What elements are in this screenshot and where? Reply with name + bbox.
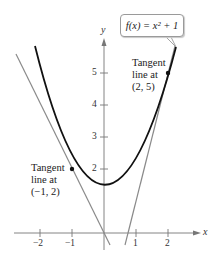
x-axis-label: x [203,226,207,237]
x-tick-label: 2 [165,238,170,248]
point-neg1-2 [70,167,74,171]
x-axis-arrow-icon [193,231,201,236]
point-2-5 [166,71,170,75]
y-axis-label: y [101,24,105,35]
y-axis-arrow-icon [102,38,107,46]
y-tick-label: 3 [92,131,97,141]
tangent-left-annotation: Tangent line at (−1, 2) [31,162,65,198]
tangent-line-diagram: f(x) = x² + 1 y x −2 −1 1 2 2 3 4 5 Tang… [0,0,212,256]
plot-area [0,0,212,256]
y-tick-label: 2 [92,163,97,173]
x-tick-label: −2 [33,238,43,248]
x-tick-label: 1 [133,238,138,248]
function-label-callout: f(x) = x² + 1 [120,14,184,37]
tangent-right-annotation: Tangent line at (2, 5) [132,57,166,93]
x-tick-label: −1 [65,238,75,248]
y-tick-label: 4 [92,99,97,109]
tangent-line-left [16,54,110,245]
y-tick-label: 5 [92,67,97,77]
